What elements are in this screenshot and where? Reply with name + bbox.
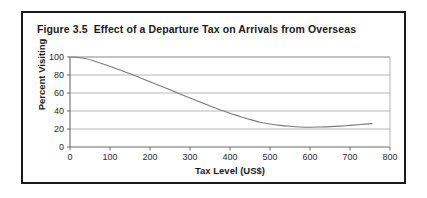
series-line xyxy=(70,57,372,127)
plot-area: Percent Visiting Tax Level (US$) 0204060… xyxy=(23,13,408,186)
figure-frame: Figure 3.5 Effect of a Departure Tax on … xyxy=(21,11,406,184)
gridlines xyxy=(70,57,390,129)
axis-ticks xyxy=(67,57,390,151)
chart-canvas xyxy=(23,13,408,186)
axis-lines xyxy=(70,57,390,147)
data-series xyxy=(70,57,372,127)
